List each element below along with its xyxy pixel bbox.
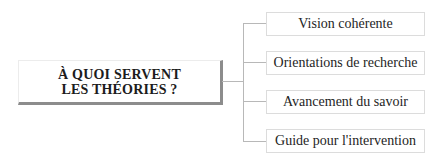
branch-node-avancement-savoir: Avancement du savoir xyxy=(266,90,425,114)
branch-node-vision-coherente: Vision cohérente xyxy=(266,12,425,36)
branch-label: Guide pour l'intervention xyxy=(275,133,416,149)
branch-label: Avancement du savoir xyxy=(283,94,408,110)
connector-spine-vertical xyxy=(243,23,244,142)
branch-label: Vision cohérente xyxy=(298,16,392,32)
connector-branch-3 xyxy=(243,101,266,102)
branch-label: Orientations de recherche xyxy=(274,55,418,71)
connector-branch-4 xyxy=(243,141,266,142)
central-topic-line-1: À QUOI SERVENT xyxy=(58,67,181,82)
branch-node-orientations-recherche: Orientations de recherche xyxy=(266,51,425,75)
branch-node-guide-intervention: Guide pour l'intervention xyxy=(266,129,425,153)
connector-trunk-horizontal xyxy=(222,81,243,82)
connector-branch-2 xyxy=(243,62,266,63)
central-topic-box: À QUOI SERVENT LES THÉORIES ? xyxy=(18,60,223,105)
connector-branch-1 xyxy=(243,23,266,24)
central-topic-line-2: LES THÉORIES ? xyxy=(61,82,177,97)
